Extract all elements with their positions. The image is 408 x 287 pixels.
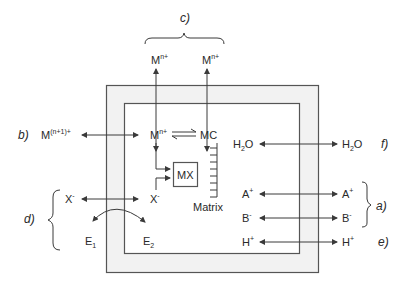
membrane-transport-diagram: c) Mn+ Mn+ b) M(n+1)+ Mn+ MC Matrix MX — [0, 0, 408, 287]
tag-d: d) — [24, 212, 35, 226]
species-e1: E1 — [85, 235, 96, 249]
species-m-outer-left: Mn+ — [151, 53, 168, 66]
species-mc: MC — [200, 129, 217, 141]
species-h2o-outer: H2O — [342, 138, 363, 152]
species-b-outer: B- — [342, 211, 352, 224]
brace-d — [48, 190, 60, 250]
species-a-outer: A+ — [342, 187, 353, 200]
cell-wall — [107, 86, 319, 273]
brace-a — [362, 182, 371, 227]
tag-b: b) — [18, 128, 29, 142]
species-mx: MX — [177, 169, 194, 181]
species-m-n1-outer: M(n+1)+ — [41, 128, 71, 141]
tag-a: a) — [376, 199, 387, 213]
matrix-label: Matrix — [193, 201, 223, 213]
tag-c: c) — [180, 11, 190, 25]
brace-c — [145, 33, 224, 44]
tag-f: f) — [381, 137, 388, 151]
species-x-outer: X- — [65, 192, 75, 205]
tag-e: e) — [378, 235, 389, 249]
species-h-outer: H+ — [342, 235, 354, 248]
species-m-outer-right: Mn+ — [202, 53, 219, 66]
